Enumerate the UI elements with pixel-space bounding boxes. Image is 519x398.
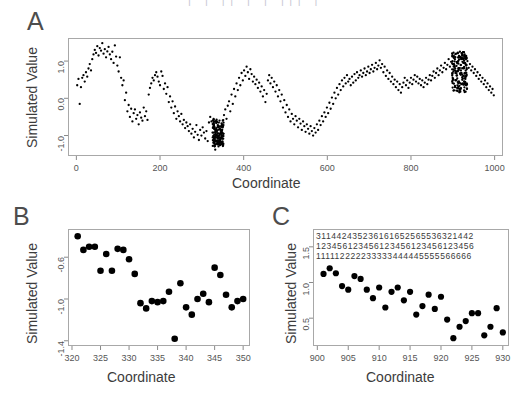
data-point-cluster	[451, 73, 453, 75]
data-point	[368, 72, 370, 74]
data-point	[330, 108, 332, 110]
data-point-cluster	[214, 145, 216, 147]
data-point	[77, 78, 79, 80]
data-point	[390, 80, 392, 82]
data-point	[225, 118, 227, 120]
data-point	[84, 80, 86, 82]
data-point	[101, 42, 103, 44]
data-point	[356, 71, 358, 73]
data-point	[358, 276, 364, 282]
data-point	[180, 113, 182, 115]
data-point	[139, 111, 141, 113]
data-point	[135, 118, 137, 120]
data-point	[233, 88, 235, 90]
data-point	[115, 55, 117, 57]
data-point	[194, 131, 196, 133]
data-point	[289, 120, 291, 122]
data-point	[240, 296, 247, 303]
x-tick-label: 330	[122, 353, 137, 363]
data-point	[166, 288, 173, 295]
data-point	[150, 82, 152, 84]
data-point	[100, 50, 102, 52]
data-point	[382, 304, 388, 310]
data-point	[211, 264, 218, 271]
data-point	[331, 96, 333, 98]
data-point	[86, 243, 93, 250]
data-point	[175, 118, 177, 120]
data-point-cluster	[454, 53, 456, 55]
data-point	[479, 74, 481, 76]
data-point	[271, 77, 273, 79]
data-point	[99, 47, 101, 49]
data-point	[146, 119, 148, 121]
data-point	[76, 84, 78, 86]
data-point	[279, 100, 281, 102]
y-tick-label: 1.0	[301, 283, 311, 296]
data-point	[186, 125, 188, 127]
data-point	[488, 89, 490, 91]
x-tick-label: 925	[464, 353, 479, 363]
data-point-cluster	[461, 79, 463, 81]
data-point	[127, 104, 129, 106]
x-tick-label: 920	[433, 353, 448, 363]
data-point	[351, 76, 353, 78]
data-point	[74, 233, 81, 240]
data-point-cluster	[211, 131, 213, 133]
data-point	[365, 74, 367, 76]
data-point	[385, 75, 387, 77]
data-point	[81, 77, 83, 79]
data-point	[323, 111, 325, 113]
data-point	[399, 83, 401, 85]
data-point	[160, 298, 167, 305]
data-point	[165, 93, 167, 95]
data-point	[133, 112, 135, 114]
data-point-cluster	[458, 91, 460, 93]
y-tick-label: 1.0	[56, 61, 66, 74]
data-point	[325, 116, 327, 118]
data-point	[336, 87, 338, 89]
data-point-cluster	[215, 129, 217, 131]
data-point	[375, 62, 377, 64]
data-point	[339, 283, 345, 289]
data-point	[470, 69, 472, 71]
data-point	[297, 126, 299, 128]
data-point-cluster	[464, 83, 466, 85]
data-point	[154, 299, 161, 306]
data-point	[435, 72, 437, 74]
data-point	[82, 74, 84, 76]
x-tick-label: 200	[153, 163, 168, 173]
data-point-cluster	[220, 131, 222, 133]
data-point	[203, 131, 205, 133]
data-point	[372, 70, 374, 72]
data-point	[223, 292, 230, 299]
data-point	[391, 76, 393, 78]
data-point	[230, 93, 232, 95]
data-point	[86, 76, 88, 78]
data-point	[117, 70, 119, 72]
data-point	[166, 86, 168, 88]
data-point	[173, 112, 175, 114]
data-point	[200, 290, 207, 297]
data-point	[490, 92, 492, 94]
data-point	[158, 80, 160, 82]
data-point	[346, 74, 348, 76]
data-point-cluster	[461, 74, 463, 76]
data-point	[432, 306, 438, 312]
data-point	[409, 82, 411, 84]
data-point	[332, 103, 334, 105]
data-point	[104, 48, 106, 50]
data-point	[136, 114, 138, 116]
data-point	[202, 126, 204, 128]
data-point	[94, 49, 96, 51]
data-point	[109, 267, 116, 274]
data-point-cluster	[218, 128, 220, 130]
data-point	[445, 68, 447, 70]
data-point	[312, 134, 314, 136]
data-point	[381, 63, 383, 65]
data-point-cluster	[459, 82, 461, 84]
data-point	[171, 100, 173, 102]
data-point	[181, 123, 183, 125]
data-point-cluster	[451, 52, 453, 54]
data-point	[170, 106, 172, 108]
data-point	[373, 67, 375, 69]
